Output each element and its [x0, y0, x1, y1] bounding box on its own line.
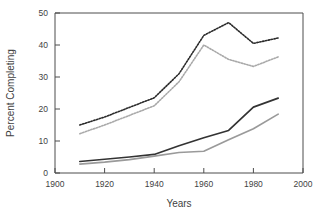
line-chart-canvas: 01020304050 190019201940196019802000 Per…: [0, 0, 325, 219]
y-axis-title: Percent Completing: [5, 49, 16, 137]
y-tick-label: 20: [39, 104, 49, 114]
x-tick-label: 2000: [294, 179, 313, 189]
x-tick-label: 1980: [244, 179, 263, 189]
y-tick-label: 0: [43, 168, 48, 178]
x-axis-title: Years: [166, 198, 191, 209]
y-tick-label: 50: [39, 8, 49, 18]
x-tick-label: 1940: [145, 179, 164, 189]
chart-figure: 01020304050 190019201940196019802000 Per…: [0, 0, 325, 219]
y-tick-label: 40: [39, 40, 49, 50]
y-tick-label: 30: [39, 72, 49, 82]
x-tick-label: 1960: [194, 179, 213, 189]
x-tick-label: 1900: [46, 179, 65, 189]
x-tick-label: 1920: [95, 179, 114, 189]
y-tick-label: 10: [39, 136, 49, 146]
